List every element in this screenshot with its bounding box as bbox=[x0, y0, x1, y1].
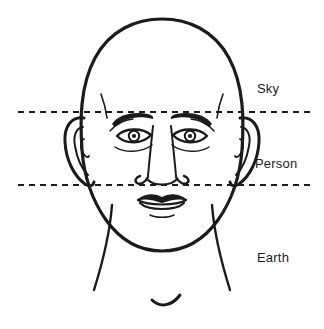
mouth-icon bbox=[138, 195, 186, 217]
right-eyebrow-icon bbox=[171, 113, 212, 127]
left-eyebrow-icon bbox=[112, 113, 153, 127]
nose-icon bbox=[136, 126, 189, 185]
right-ear-icon bbox=[230, 118, 259, 186]
head-outline-icon bbox=[81, 19, 243, 251]
left-ear-icon bbox=[65, 118, 94, 186]
zone-label-sky: Sky bbox=[257, 82, 279, 95]
temple-lines-icon bbox=[101, 94, 223, 118]
collarbone-icon bbox=[152, 295, 180, 305]
zone-label-person: Person bbox=[255, 157, 297, 170]
zone-label-earth: Earth bbox=[257, 251, 289, 264]
diagram-canvas: Sky Person Earth bbox=[0, 0, 324, 329]
